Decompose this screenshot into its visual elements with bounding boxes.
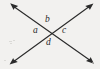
scan-artifact-speck [13, 40, 15, 41]
angle-label-c: c [62, 26, 66, 36]
geometry-figure: a b c d [0, 0, 100, 69]
angle-label-a: a [33, 26, 38, 36]
angle-label-d: d [46, 38, 51, 48]
intersecting-lines-svg [0, 0, 100, 69]
scan-artifact-speck [92, 62, 94, 63]
angle-label-b: b [45, 15, 50, 25]
scan-artifact-speck [9, 41, 12, 42]
scan-artifact-speck [4, 60, 6, 61]
scan-artifact-speck [10, 43, 12, 44]
